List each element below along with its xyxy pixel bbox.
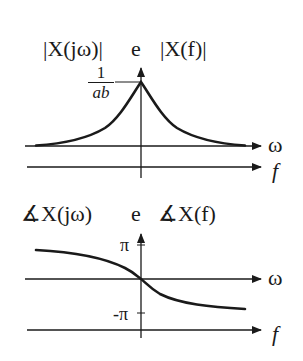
magnitude-title-left: |X(jω)| xyxy=(43,38,103,60)
magnitude-f-label: f xyxy=(272,160,278,182)
tick-pi-label: π xyxy=(120,236,129,254)
fourier-transform-diagram: |X(jω)| e |X(f)| 1 ab ω f ∡X(jω) e ∡X(f)… xyxy=(0,0,303,361)
magnitude-title-connector: e xyxy=(131,38,141,60)
magnitude-plot xyxy=(25,68,261,178)
peak-value-denominator: ab xyxy=(88,84,114,101)
phase-title-right: ∡X(f) xyxy=(158,203,216,225)
tick-neg-pi-label: -π xyxy=(113,305,128,323)
magnitude-title-right: |X(f)| xyxy=(160,38,207,60)
phase-plot xyxy=(25,234,261,338)
peak-value-numerator: 1 xyxy=(88,64,114,81)
phase-omega-label: ω xyxy=(268,267,282,289)
phase-title-connector: e xyxy=(131,203,141,225)
magnitude-omega-label: ω xyxy=(268,134,282,156)
phase-title-left: ∡X(jω) xyxy=(21,203,92,225)
peak-value-label: 1 ab xyxy=(88,64,114,101)
phase-f-label: f xyxy=(272,323,278,345)
